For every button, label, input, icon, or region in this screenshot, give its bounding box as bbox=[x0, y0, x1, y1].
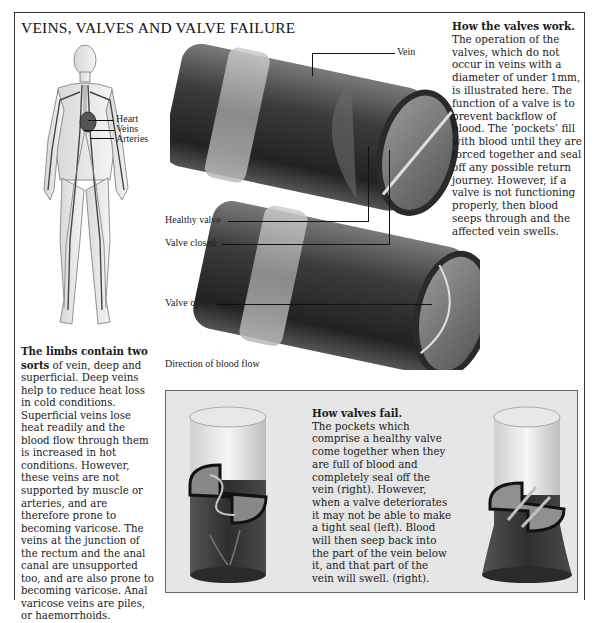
healthy-valve-leader-line bbox=[228, 221, 368, 222]
leaky-valve-illustration bbox=[180, 405, 280, 585]
blood-flow-direction-label: Direction of blood flow bbox=[165, 358, 260, 369]
vein-leader-drop bbox=[312, 53, 313, 76]
valve-closed-leader-drop bbox=[389, 150, 390, 245]
how-valves-fail-text: How valves fail. The pockets which compr… bbox=[312, 407, 452, 585]
healthy-valve-label: Healthy valve bbox=[165, 214, 221, 225]
limbs-text: The limbs contain two sorts of vein, dee… bbox=[21, 345, 155, 623]
limbs-body: of vein, deep and superficial. Deep vein… bbox=[21, 360, 154, 622]
how-valves-fail-heading: How valves fail. bbox=[312, 407, 402, 419]
arteries-label: Arteries bbox=[116, 133, 148, 144]
vein-label: Vein bbox=[397, 46, 415, 57]
page-title: VEINS, VALVES AND VALVE FAILURE bbox=[21, 19, 295, 37]
how-valves-work-body: The operation of the valves, which do no… bbox=[452, 33, 582, 237]
vein-valve-diagram bbox=[170, 40, 480, 370]
valve-closed-leader-line bbox=[222, 244, 390, 245]
veins-leader-line bbox=[84, 130, 114, 131]
swollen-vein-illustration bbox=[478, 405, 578, 585]
how-valves-work-heading: How the valves work. bbox=[452, 20, 575, 32]
heart-leader-line bbox=[88, 120, 114, 121]
valve-open-leader-line bbox=[217, 304, 432, 305]
healthy-valve-leader-drop bbox=[368, 146, 369, 222]
how-valves-work-text: How the valves work. The operation of th… bbox=[452, 20, 582, 238]
arteries-leader-line bbox=[90, 138, 114, 139]
vein-leader-line bbox=[312, 53, 395, 54]
how-valves-fail-body: The pockets which comprise a healthy val… bbox=[312, 420, 451, 584]
valve-open-label: Valve open bbox=[165, 297, 210, 308]
human-body-illustration bbox=[30, 40, 140, 330]
valve-closed-label: Valve closed bbox=[165, 237, 216, 248]
